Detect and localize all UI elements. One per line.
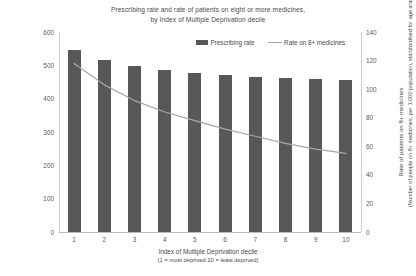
y-tick-right-20: 20 <box>366 200 392 207</box>
y-tick-left-300: 300 <box>28 129 54 136</box>
x-tick-2: 2 <box>94 236 114 243</box>
x-axis-line <box>59 232 361 233</box>
x-tick-10: 10 <box>336 236 356 243</box>
axis-line-right <box>361 32 362 232</box>
y-tick-right-40: 40 <box>366 171 392 178</box>
y-tick-left-500: 500 <box>28 62 54 69</box>
y-axis-left-title: Prescribing rate (Number of people on at… <box>0 0 1 42</box>
x-tick-7: 7 <box>245 236 265 243</box>
chart-container: Prescribing rate and rate of patients on… <box>0 0 416 276</box>
x-tick-4: 4 <box>155 236 175 243</box>
line-series-rate-on-8-plus-medicines <box>59 32 361 232</box>
x-axis-title: Index of Multiple Deprivation decile (1 … <box>58 247 358 265</box>
y-tick-right-100: 100 <box>366 86 392 93</box>
chart-title: Prescribing rate and rate of patients on… <box>58 5 358 24</box>
plot-area <box>59 32 361 232</box>
y-axis-left-title-sub: (Number of people on at least one medici… <box>0 0 1 42</box>
x-tick-1: 1 <box>64 236 84 243</box>
y-axis-right-title-main: Rate of patients on 8+ medicines <box>397 57 406 207</box>
chart-title-line-2: by Index of Multiple Deprivation decile <box>58 15 358 25</box>
x-axis-title-sub: (1 = most deprived 10 = least deprived) <box>58 256 358 265</box>
y-tick-right-0: 0 <box>366 229 392 236</box>
chart-title-line-1: Prescribing rate and rate of patients on… <box>111 6 305 13</box>
y-axis-right-title: Rate of patients on 8+ medicines (Number… <box>397 57 414 207</box>
x-tick-9: 9 <box>306 236 326 243</box>
y-tick-left-200: 200 <box>28 162 54 169</box>
y-tick-right-140: 140 <box>366 29 392 36</box>
y-tick-right-60: 60 <box>366 143 392 150</box>
y-tick-left-100: 100 <box>28 195 54 202</box>
y-axis-right-title-sub: (Number of people on 8+ medicines, per 1… <box>406 57 415 207</box>
x-axis-title-main: Index of Multiple Deprivation decile <box>158 248 257 255</box>
y-tick-right-80: 80 <box>366 114 392 121</box>
y-tick-left-0: 0 <box>28 229 54 236</box>
y-tick-left-400: 400 <box>28 95 54 102</box>
y-tick-left-600: 600 <box>28 29 54 36</box>
x-tick-5: 5 <box>185 236 205 243</box>
y-tick-right-120: 120 <box>366 57 392 64</box>
x-tick-6: 6 <box>215 236 235 243</box>
x-tick-8: 8 <box>276 236 296 243</box>
x-tick-3: 3 <box>125 236 145 243</box>
